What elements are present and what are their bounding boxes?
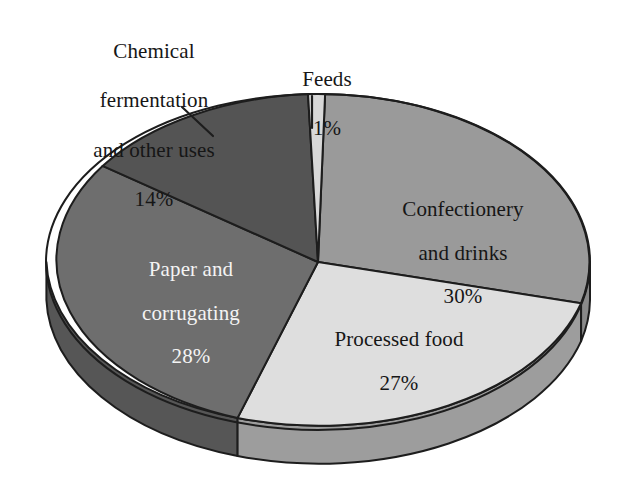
pie-chart-figure: Chemical fermentation and other uses 14%… <box>0 0 632 477</box>
pie-chart-graphic <box>0 0 632 477</box>
